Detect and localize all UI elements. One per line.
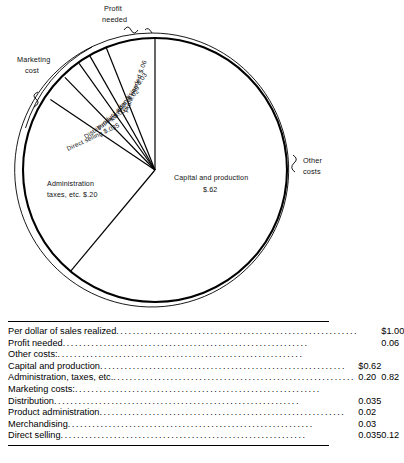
table-row: Direct selling .........................… bbox=[8, 430, 404, 442]
table-body: Per dollar of sales realized ...........… bbox=[8, 326, 404, 442]
table-row: Product administration .................… bbox=[8, 407, 404, 419]
table-row-value-primary: 0.20 bbox=[358, 372, 381, 384]
table-row-value-total bbox=[381, 396, 404, 408]
leader-dots: ........................................… bbox=[54, 396, 354, 408]
table-row-value-total bbox=[381, 349, 404, 361]
table-row-value-primary bbox=[358, 384, 381, 396]
leader-dots: ........................................… bbox=[113, 372, 355, 384]
table-row-label-cell: Per dollar of sales realized ...........… bbox=[8, 326, 358, 338]
table-row-value-primary: 0.02 bbox=[358, 407, 381, 419]
slice-label-capital-line1: Capital and production bbox=[174, 174, 248, 182]
table-row-value-total bbox=[381, 419, 404, 431]
table-row: Profit needed ..........................… bbox=[8, 338, 404, 350]
table-row-value-total: 0.06 bbox=[381, 338, 404, 350]
table-row: Marketing costs: .......................… bbox=[8, 384, 404, 396]
table-row: Merchandising ..........................… bbox=[8, 419, 404, 431]
table-row-label-cell: Administration, taxes, etc. ............… bbox=[8, 372, 358, 384]
table-row-value-total: 0.12 bbox=[381, 430, 404, 442]
cost-breakdown-table-area: Per dollar of sales realized ...........… bbox=[0, 312, 337, 463]
callout-other-costs-line1: Other bbox=[303, 156, 322, 165]
table-row-label: Administration, taxes, etc. bbox=[8, 372, 113, 382]
table-bottom-rule bbox=[8, 445, 329, 446]
table-row: Distribution ...........................… bbox=[8, 396, 404, 408]
leader-dots: ........................................… bbox=[75, 384, 354, 396]
table-row-value-total bbox=[381, 361, 404, 373]
table-row-value-total: $1.00 bbox=[381, 326, 404, 338]
profit-brace-left bbox=[124, 27, 138, 33]
cost-breakdown-table: Per dollar of sales realized ...........… bbox=[8, 326, 404, 442]
table-row-label: Merchandising bbox=[8, 419, 68, 429]
table-row-label-cell: Direct selling .........................… bbox=[8, 430, 358, 442]
callout-profit-needed-line1: Profit bbox=[104, 4, 122, 13]
leader-dots: ........................................… bbox=[63, 338, 355, 350]
table-row-label: Per dollar of sales realized bbox=[8, 326, 116, 336]
table-row-value-primary: 0.03 bbox=[358, 419, 381, 431]
table-row: Per dollar of sales realized ...........… bbox=[8, 326, 404, 338]
table-row-label: Direct selling bbox=[8, 430, 61, 440]
table-row-value-total: 0.82 bbox=[381, 372, 404, 384]
slice-label-administration-line2: taxes, etc. $.20 bbox=[47, 191, 98, 199]
table-row: Capital and production .................… bbox=[8, 361, 404, 373]
table-row-value-total bbox=[381, 407, 404, 419]
table-row-label-cell: Merchandising ..........................… bbox=[8, 419, 358, 431]
table-row-value-primary bbox=[358, 349, 381, 361]
leader-dots: ........................................… bbox=[99, 407, 354, 419]
leader-dots: ........................................… bbox=[116, 326, 358, 338]
slice-label-capital-line2: $.62 bbox=[203, 186, 217, 194]
table-row-label: Profit needed bbox=[8, 338, 63, 348]
table-row-label-cell: Profit needed ..........................… bbox=[8, 338, 358, 350]
table-row-value-primary: $0.62 bbox=[358, 361, 381, 373]
table-row-label: Capital and production bbox=[8, 361, 100, 371]
leader-dots: ........................................… bbox=[58, 349, 355, 361]
pie-chart-figure: Profit needed $.06 Merchandising $.03 Pr… bbox=[0, 0, 337, 312]
table-row: Other costs: ...........................… bbox=[8, 349, 404, 361]
table-row-label-cell: Marketing costs: .......................… bbox=[8, 384, 358, 396]
other-costs-brace bbox=[292, 155, 297, 172]
table-row-label: Marketing costs: bbox=[8, 384, 75, 394]
leader-dots: ........................................… bbox=[100, 361, 355, 373]
table-row-value-primary: 0.035 bbox=[358, 396, 381, 408]
pie-chart-svg: Profit needed $.06 Merchandising $.03 Pr… bbox=[0, 0, 337, 312]
slice-label-administration-line1: Administration bbox=[47, 180, 94, 188]
callout-profit-needed-line2: needed bbox=[102, 15, 127, 24]
other-costs-outer-arc bbox=[15, 33, 289, 307]
callout-other-costs-line2: costs bbox=[303, 167, 321, 176]
table-row-label: Product administration bbox=[8, 407, 99, 417]
leader-dots: ........................................… bbox=[68, 419, 354, 431]
table-row-value-primary bbox=[358, 326, 381, 338]
table-row-value-primary bbox=[358, 338, 381, 350]
callout-marketing-line2: cost bbox=[25, 66, 39, 75]
profit-brace-tip bbox=[145, 29, 152, 33]
table-row-value-total bbox=[381, 384, 404, 396]
leader-dots: ........................................… bbox=[61, 430, 354, 442]
table-row-label-cell: Capital and production .................… bbox=[8, 361, 358, 373]
table-row-label-cell: Product administration .................… bbox=[8, 407, 358, 419]
table-row-label-cell: Distribution ...........................… bbox=[8, 396, 358, 408]
table-row-label: Other costs: bbox=[8, 349, 58, 359]
table-top-rule bbox=[8, 321, 329, 322]
callout-marketing-line1: Marketing bbox=[17, 55, 50, 64]
table-row-label-cell: Other costs: ...........................… bbox=[8, 349, 358, 361]
table-row-label: Distribution bbox=[8, 396, 54, 406]
table-row: Administration, taxes, etc. ............… bbox=[8, 372, 404, 384]
table-row-value-primary: 0.035 bbox=[358, 430, 381, 442]
